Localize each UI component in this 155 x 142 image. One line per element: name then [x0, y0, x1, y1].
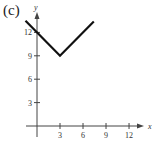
x-tick-label: 3: [58, 131, 62, 140]
chart: 36912 36912 x y: [0, 0, 155, 142]
data-line: [26, 21, 94, 56]
x-tick-label: 12: [125, 131, 133, 140]
y-tick-label: 9: [28, 52, 32, 61]
y-ticks: 36912: [24, 28, 40, 107]
x-axis-label: x: [147, 122, 152, 131]
x-tick-label: 6: [81, 131, 85, 140]
y-tick-label: 6: [28, 75, 32, 84]
x-tick-label: 9: [104, 131, 108, 140]
y-axis-label: y: [33, 3, 38, 12]
y-tick-label: 12: [24, 28, 32, 37]
y-tick-label: 3: [28, 99, 32, 108]
x-axis-arrow-icon: [137, 124, 144, 129]
y-axis-arrow-icon: [35, 12, 40, 19]
